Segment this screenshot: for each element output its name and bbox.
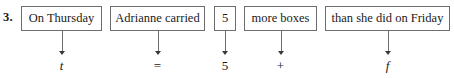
arrow-head (59, 51, 65, 55)
algebra-symbol: 5 (222, 59, 229, 72)
phrase-box[interactable]: Adrianne carried (110, 6, 205, 31)
down-arrow-icon (154, 31, 163, 56)
down-arrow-icon (277, 31, 286, 56)
word-problem-translation-diagram: 3. On Thursday Adrianne carried 5 more b… (0, 0, 454, 78)
down-arrow-icon (221, 31, 230, 56)
arrow-head (385, 51, 391, 55)
phrase-box[interactable]: On Thursday (21, 6, 102, 31)
algebra-symbol: + (277, 59, 284, 72)
algebra-symbol: = (154, 59, 161, 72)
arrow-shaft (388, 31, 389, 52)
problem-number: 3. (3, 11, 13, 24)
arrow-shaft (281, 31, 282, 52)
arrow-head (222, 51, 228, 55)
phrase-box[interactable]: than she did on Friday (325, 6, 450, 31)
down-arrow-icon (384, 31, 393, 56)
down-arrow-icon (58, 31, 67, 56)
algebra-symbol: t (60, 59, 64, 72)
arrow-shaft (62, 31, 63, 52)
phrase-box[interactable]: 5 (214, 6, 236, 31)
algebra-symbol: f (386, 59, 390, 72)
arrow-shaft (225, 31, 226, 52)
arrow-head (155, 51, 161, 55)
arrow-head (278, 51, 284, 55)
phrase-box[interactable]: more boxes (244, 6, 317, 31)
arrow-shaft (158, 31, 159, 52)
